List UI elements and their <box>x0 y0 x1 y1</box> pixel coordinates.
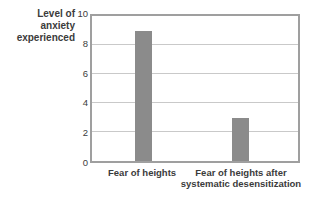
y-tick-label: 2 <box>58 127 88 139</box>
bar-chart-figure: Level of anxiety experienced 0246810 Fea… <box>0 0 318 206</box>
bars-layer <box>92 16 298 161</box>
x-category-label: Fear of heights after systematic desensi… <box>171 167 311 189</box>
bar <box>232 118 249 162</box>
y-tick-label: 4 <box>58 97 88 109</box>
y-tick-label: 10 <box>58 8 88 20</box>
y-tick-label: 6 <box>58 68 88 80</box>
plot-area <box>90 14 300 163</box>
bar <box>135 31 152 162</box>
y-tick-label: 8 <box>58 38 88 50</box>
